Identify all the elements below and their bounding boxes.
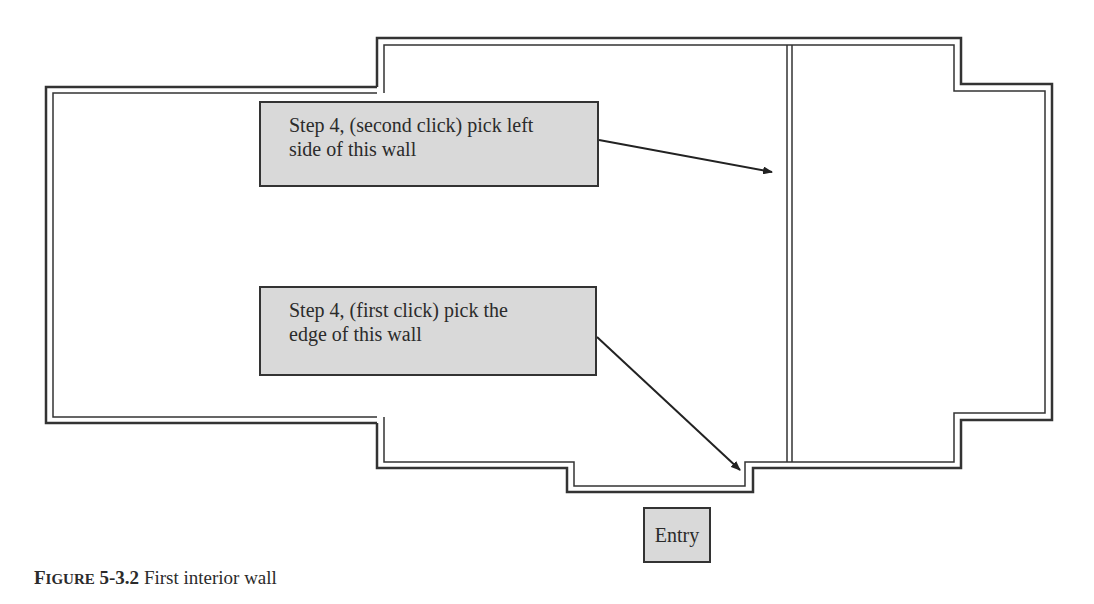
figure-number-value: 5-3.2 [100,567,140,588]
figure-caption: FIGURE 5-3.2 First interior wall [34,567,277,589]
figure-title: First interior wall [144,567,277,588]
arrow-first-click [597,337,740,470]
figure-prefix-initial: F [34,567,46,588]
callout-second-click: Step 4, (second click) pick left side of… [259,101,599,187]
callout-first-line2: edge of this wall [289,322,583,346]
leader-arrows [597,140,772,470]
entry-label: Entry [643,507,711,563]
arrow-second-click [599,140,772,172]
callout-second-line1: Step 4, (second click) pick left [289,113,585,137]
figure-prefix-rest: IGURE [46,571,95,587]
figure-number: FIGURE 5-3.2 [34,567,139,588]
callout-first-click: Step 4, (first click) pick the edge of t… [259,286,597,376]
callout-first-line1: Step 4, (first click) pick the [289,298,583,322]
callout-second-line2: side of this wall [289,137,585,161]
